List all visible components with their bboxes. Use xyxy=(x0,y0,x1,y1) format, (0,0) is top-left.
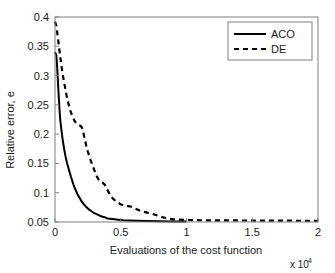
y-tick-label: 0.4 xyxy=(34,11,49,23)
x-axis-label: Evaluations of the cost function xyxy=(110,244,262,256)
convergence-chart-figure: 00.511.52 0.050.10.150.20.250.30.350.4 E… xyxy=(0,0,335,273)
y-axis-ticks: 0.050.10.150.20.250.30.350.4 xyxy=(28,11,59,228)
x-axis-exponent: x 10 4 xyxy=(290,257,312,270)
legend[interactable]: ACO DE xyxy=(228,22,312,60)
y-tick-label: 0.25 xyxy=(28,99,49,111)
x-axis-exponent-power: 4 xyxy=(308,257,312,264)
x-tick-label: 1 xyxy=(183,226,189,238)
x-tick-label: 2 xyxy=(315,226,321,238)
y-tick-label: 0.15 xyxy=(28,157,49,169)
y-tick-label: 0.35 xyxy=(28,40,49,52)
x-tick-label: 0 xyxy=(52,226,58,238)
legend-label-aco: ACO xyxy=(271,28,295,40)
chart-canvas: 00.511.52 0.050.10.150.20.250.30.350.4 E… xyxy=(0,0,335,273)
legend-label-de: DE xyxy=(271,43,286,55)
x-tick-label: 0.5 xyxy=(113,226,128,238)
x-tick-label: 1.5 xyxy=(245,226,260,238)
legend-box xyxy=(228,22,312,60)
y-tick-label: 0.3 xyxy=(34,70,49,82)
y-tick-label: 0.05 xyxy=(28,216,49,228)
y-axis-label: Relative error, e xyxy=(4,91,16,169)
y-tick-label: 0.1 xyxy=(34,187,49,199)
y-tick-label: 0.2 xyxy=(34,128,49,140)
x-axis-exponent-base: x 10 xyxy=(290,259,309,270)
